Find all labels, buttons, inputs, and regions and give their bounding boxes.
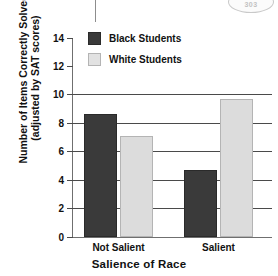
y-tick-2 (67, 208, 73, 209)
bar-salient-black-students (184, 170, 217, 237)
x-tick-label-salient: Salient (202, 242, 235, 253)
y-tick-0 (67, 237, 73, 238)
y-tick-label-10: 10 (53, 89, 64, 100)
legend-label: White Students (109, 54, 182, 65)
y-axis-title-line2: (adjusted by SAT scores) (29, 15, 42, 140)
bar-salient-white-students (220, 99, 253, 237)
y-axis-title-line1: Number of Items Correctly Solved (17, 0, 30, 164)
y-tick-label-0: 0 (58, 231, 64, 242)
legend-swatch-icon (88, 53, 101, 66)
gridline-10 (72, 94, 272, 95)
bar-not-salient-white-students (120, 136, 153, 237)
y-tick-8 (67, 123, 73, 124)
legend-item-white-students: White Students (88, 49, 228, 70)
y-tick-4 (67, 180, 73, 181)
legend-item-black-students: Black Students (88, 28, 228, 49)
y-tick-12 (67, 66, 73, 67)
y-tick-6 (67, 151, 73, 152)
y-axis-title: Number of Items Correctly Solved (adjust… (12, 0, 46, 184)
y-tick-label-4: 4 (58, 174, 64, 185)
bar-body (220, 99, 253, 237)
legend-label: Black Students (109, 33, 181, 44)
bar-body (84, 114, 117, 236)
y-tick-14 (67, 38, 73, 39)
legend-swatch-icon (88, 32, 101, 45)
y-tick-label-2: 2 (58, 203, 64, 214)
bar-body (120, 136, 153, 237)
y-tick-label-14: 14 (53, 32, 64, 43)
y-tick-10 (67, 94, 73, 95)
x-axis-line (72, 237, 272, 238)
y-tick-label-12: 12 (53, 60, 64, 71)
decorative-rule (95, 0, 96, 22)
x-axis-title: Salience of Race (0, 258, 278, 270)
bar-body (184, 170, 217, 237)
y-tick-label-6: 6 (58, 146, 64, 157)
x-tick-label-not-salient: Not Salient (92, 242, 144, 253)
legend: Black StudentsWhite Students (88, 28, 228, 70)
page-number-badge: 303 (228, 0, 274, 13)
bar-not-salient-black-students (84, 114, 117, 236)
y-tick-label-8: 8 (58, 117, 64, 128)
